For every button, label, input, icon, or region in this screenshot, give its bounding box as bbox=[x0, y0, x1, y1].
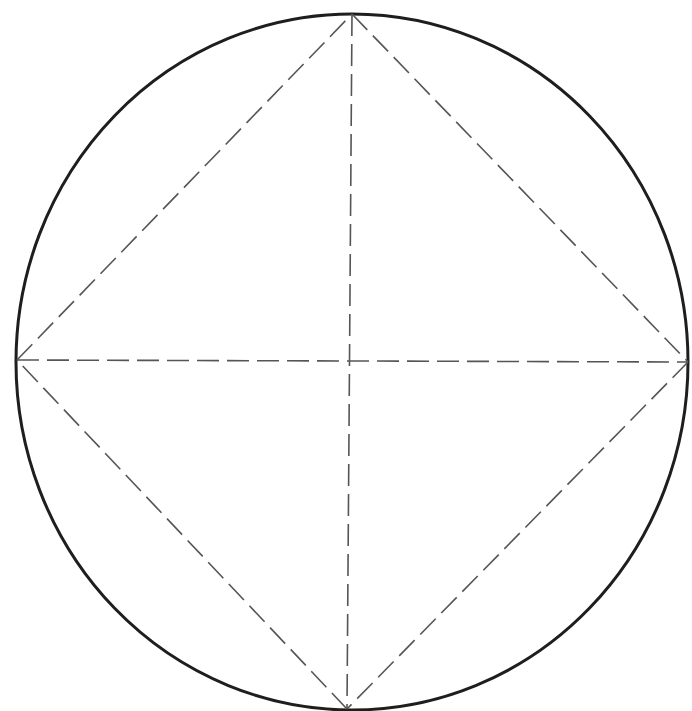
diagram-canvas bbox=[0, 0, 692, 711]
square-edge-bottom-left bbox=[17, 360, 347, 709]
dashed-lines bbox=[17, 14, 688, 709]
square-edge-right-bottom bbox=[347, 362, 688, 709]
square-edge-left-top bbox=[17, 14, 352, 360]
square-edge-top-right bbox=[352, 14, 688, 362]
diagonal-horizontal bbox=[17, 360, 688, 362]
